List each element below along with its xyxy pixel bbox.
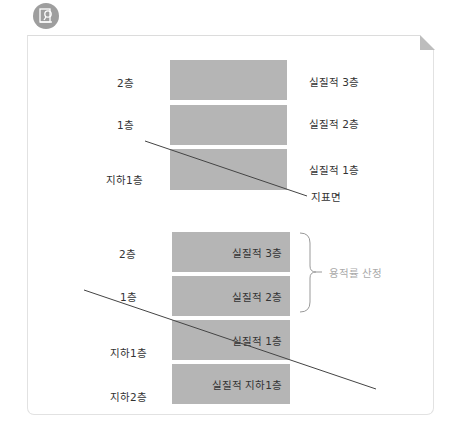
brace-icon [300, 233, 316, 312]
ground-line-top [145, 141, 307, 196]
diagram-lines [0, 0, 458, 441]
ground-line-bottom [84, 290, 376, 389]
